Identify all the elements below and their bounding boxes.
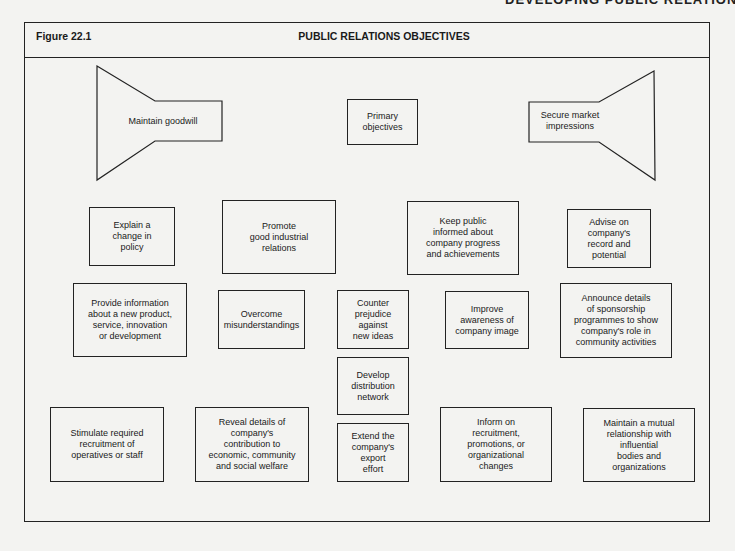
box-provide-info: Provide information about a new product,… <box>73 283 187 357</box>
primary-objectives-box: Primary objectives <box>347 99 418 145</box>
box-inform-recruitment: Inform on recruitment, promotions, or or… <box>440 407 552 482</box>
box-explain-policy: Explain a change in policy <box>89 207 175 266</box>
box-promote-industrial: Promote good industrial relations <box>222 200 336 274</box>
box-overcome-misunderstandings: Overcome misunderstandings <box>218 290 305 349</box>
right-funnel-label: Secure market impressions <box>535 110 605 132</box>
left-funnel-label: Maintain goodwill <box>123 116 203 127</box>
box-keep-public-informed: Keep public informed about company progr… <box>407 201 519 275</box>
box-develop-distribution: Develop distribution network <box>337 357 409 415</box>
box-extend-export: Extend the company's export effort <box>337 423 409 482</box>
box-advise-record: Advise on company's record and potential <box>567 209 651 268</box>
box-stimulate-recruitment: Stimulate required recruitment of operat… <box>50 407 164 482</box>
box-reveal-contribution: Reveal details of company's contribution… <box>195 407 309 482</box>
box-counter-prejudice: Counter prejudice against new ideas <box>337 290 409 349</box>
box-maintain-relationship: Maintain a mutual relationship with infl… <box>583 408 695 482</box>
box-improve-awareness: Improve awareness of company image <box>445 291 529 349</box>
box-announce-sponsorship: Announce details of sponsorship programm… <box>560 283 672 358</box>
